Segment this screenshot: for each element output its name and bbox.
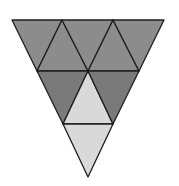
triangle-r3-a [63, 124, 113, 177]
triangle-diagram [0, 0, 179, 186]
inverted-triangle-figure [0, 0, 179, 186]
